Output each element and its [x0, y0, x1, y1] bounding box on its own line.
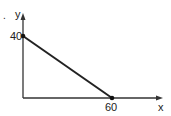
x-axis-arrow-icon	[156, 96, 163, 101]
point-x-intercept	[110, 96, 115, 101]
line-chart: . y 40 60 x	[0, 0, 171, 116]
x-axis-label: x	[158, 101, 164, 113]
data-line	[23, 36, 112, 98]
x-intercept-label: 60	[105, 101, 117, 113]
y-intercept-label: 40	[10, 30, 22, 42]
stray-mark: .	[3, 10, 6, 21]
y-axis-arrow-icon	[21, 13, 26, 20]
y-axis-label: y	[15, 8, 21, 20]
